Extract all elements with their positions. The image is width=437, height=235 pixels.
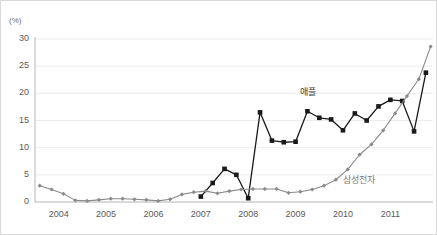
data-point-marker xyxy=(305,109,310,114)
data-point-marker xyxy=(132,197,136,201)
data-point-marker xyxy=(246,196,251,201)
data-point-marker xyxy=(424,70,429,75)
data-point-marker xyxy=(275,187,279,191)
data-point-marker xyxy=(227,189,231,193)
data-point-marker xyxy=(412,129,417,134)
data-point-marker xyxy=(293,139,298,144)
data-point-marker xyxy=(144,198,148,202)
data-point-marker xyxy=(97,198,101,202)
data-point-marker xyxy=(286,191,290,195)
data-point-marker xyxy=(270,138,275,143)
data-point-marker xyxy=(329,117,334,122)
data-point-marker xyxy=(429,44,433,48)
series-label-apple: 애플 xyxy=(300,85,316,98)
gridlines xyxy=(35,39,433,175)
data-point-marker xyxy=(222,167,227,172)
data-point-marker xyxy=(388,98,393,103)
data-point-marker xyxy=(168,197,172,201)
data-point-marker xyxy=(38,184,42,188)
data-point-marker xyxy=(341,128,346,133)
data-point-marker xyxy=(49,187,53,191)
data-point-marker xyxy=(376,104,381,109)
data-point-marker xyxy=(234,173,239,178)
data-point-marker xyxy=(210,181,215,186)
data-point-marker xyxy=(215,191,219,195)
data-point-marker xyxy=(310,187,314,191)
data-point-marker xyxy=(121,197,125,201)
data-point-marker xyxy=(281,140,286,145)
data-point-marker xyxy=(180,192,184,196)
data-point-marker xyxy=(263,187,267,191)
plot-area xyxy=(1,1,437,235)
series-label-samsung: 삼성전자 xyxy=(343,173,375,186)
data-point-marker xyxy=(109,197,113,201)
data-point-marker xyxy=(199,194,204,199)
data-point-marker xyxy=(322,184,326,188)
data-point-marker xyxy=(298,190,302,194)
data-point-marker xyxy=(317,115,322,120)
data-point-marker xyxy=(353,111,358,116)
data-point-marker xyxy=(251,187,255,191)
data-point-marker xyxy=(192,190,196,194)
chart-container: (%) 051015202530 20042005200620072008200… xyxy=(0,0,437,235)
data-point-marker xyxy=(258,110,263,115)
data-point-marker xyxy=(364,118,369,123)
data-point-marker xyxy=(61,192,65,196)
